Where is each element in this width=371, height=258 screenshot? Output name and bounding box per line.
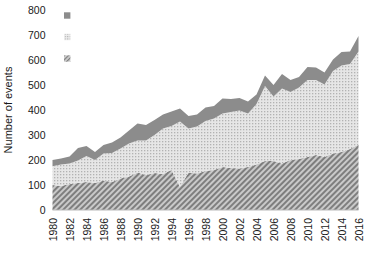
x-tick-label: 2016 bbox=[353, 218, 365, 242]
x-tick-label: 2012 bbox=[319, 218, 331, 242]
x-tick-label: 1996 bbox=[183, 218, 195, 242]
y-tick-label: 700 bbox=[28, 29, 46, 41]
x-tick-label: 2000 bbox=[217, 218, 229, 242]
x-tick-label: 1984 bbox=[81, 218, 93, 242]
x-tick-label: 2006 bbox=[268, 218, 280, 242]
x-axis-tick-labels: 1980198219841986198819901992199419961998… bbox=[47, 218, 365, 242]
y-tick-label: 600 bbox=[28, 54, 46, 66]
y-tick-label: 400 bbox=[28, 104, 46, 116]
legend-swatch bbox=[64, 55, 70, 61]
x-tick-label: 1998 bbox=[200, 218, 212, 242]
chart-legend bbox=[64, 12, 70, 61]
x-tick-label: 1994 bbox=[166, 218, 178, 242]
x-tick-label: 1988 bbox=[115, 218, 127, 242]
y-tick-label: 0 bbox=[40, 204, 46, 216]
x-tick-label: 2010 bbox=[302, 218, 314, 242]
x-tick-label: 2008 bbox=[285, 218, 297, 242]
stacked-area-chart: 0100200300400500600700800 19801982198419… bbox=[0, 0, 371, 258]
x-tick-label: 1980 bbox=[47, 218, 59, 242]
x-tick-label: 1990 bbox=[132, 218, 144, 242]
y-tick-label: 300 bbox=[28, 129, 46, 141]
chart-svg: 0100200300400500600700800 19801982198419… bbox=[0, 0, 371, 258]
x-tick-label: 1982 bbox=[64, 218, 76, 242]
plot-area-series bbox=[53, 36, 359, 210]
x-tick-label: 2014 bbox=[336, 218, 348, 242]
y-axis-tick-labels: 0100200300400500600700800 bbox=[28, 4, 46, 216]
y-tick-label: 100 bbox=[28, 179, 46, 191]
y-tick-label: 200 bbox=[28, 154, 46, 166]
legend-swatch bbox=[64, 12, 70, 18]
y-tick-label: 800 bbox=[28, 4, 46, 16]
x-tick-label: 2002 bbox=[234, 218, 246, 242]
legend-swatch bbox=[64, 34, 70, 40]
x-tick-label: 1992 bbox=[149, 218, 161, 242]
y-tick-label: 500 bbox=[28, 79, 46, 91]
x-tick-label: 1986 bbox=[98, 218, 110, 242]
y-axis-title: Number of events bbox=[2, 66, 14, 153]
x-tick-label: 2004 bbox=[251, 218, 263, 242]
